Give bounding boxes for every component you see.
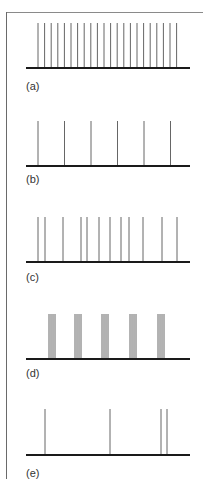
panel-a-label: (a): [26, 80, 39, 92]
panel-c-label: (c): [26, 271, 39, 283]
panel-d-label: (d): [26, 367, 39, 379]
spike-train-figure: (a) (b) (c) (d) (e): [0, 0, 203, 479]
panel-e-label: (e): [26, 467, 39, 479]
spike-trains-canvas: [0, 0, 203, 479]
panel-a-spike-train: [26, 23, 190, 68]
panel-c-spike-train: [26, 217, 190, 262]
panel-d-spike-train: [26, 314, 190, 359]
panel-b-label: (b): [26, 173, 39, 185]
panel-e-spike-train: [26, 409, 190, 455]
panel-b-spike-train: [26, 121, 190, 166]
